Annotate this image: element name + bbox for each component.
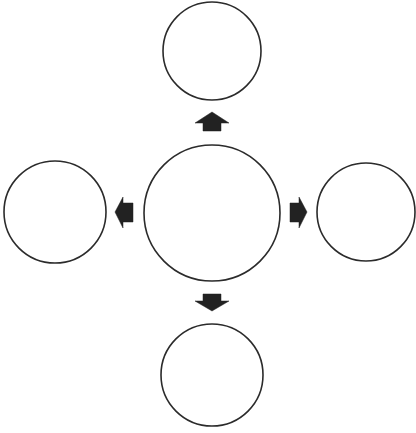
block-arrow-up-icon — [195, 112, 229, 131]
center-node — [144, 145, 280, 281]
bottom-node — [161, 324, 263, 426]
left-node — [4, 161, 106, 263]
top-node — [163, 2, 261, 100]
block-arrow-right-icon — [290, 197, 307, 228]
right-node — [317, 163, 415, 261]
nodes — [4, 2, 415, 426]
block-arrow-down-icon — [195, 294, 229, 311]
block-arrow-left-icon — [115, 197, 133, 228]
hub-spoke-diagram — [0, 0, 416, 433]
